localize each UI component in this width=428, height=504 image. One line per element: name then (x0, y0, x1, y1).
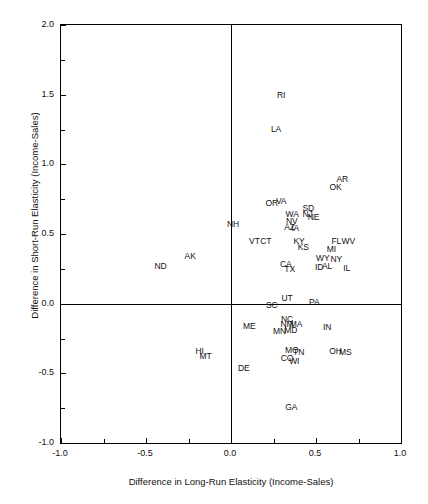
data-point-label: NH (227, 220, 239, 229)
data-point-label: CT (260, 236, 271, 245)
data-point-label: OK (330, 183, 342, 192)
y-tick-minor (61, 408, 65, 409)
data-point-label: TX (284, 265, 295, 274)
y-tick-label: -0.5 (22, 367, 54, 377)
x-tick (401, 438, 402, 443)
y-tick-label: 0.5 (22, 228, 54, 238)
y-tick (61, 373, 66, 374)
data-point-label: MT (199, 351, 211, 360)
y-tick-label: 1.5 (22, 89, 54, 99)
x-tick-label: 0.5 (309, 448, 322, 458)
x-tick (316, 438, 317, 443)
data-point-label: WI (289, 356, 299, 365)
data-point-label: MD (284, 326, 297, 335)
x-axis-title: Difference in Long-Run Elasticity (Incom… (60, 476, 402, 487)
data-point-label: WV (342, 236, 356, 245)
data-point-label: PA (309, 297, 320, 306)
x-tick-label: -1.0 (52, 448, 68, 458)
x-tick-label: 1.0 (394, 448, 407, 458)
y-tick-label: -1.0 (22, 437, 54, 447)
y-tick-label: 1.0 (22, 158, 54, 168)
data-point-label: GA (285, 403, 297, 412)
data-point-label: IL (343, 264, 350, 273)
y-tick-minor (61, 130, 65, 131)
y-tick-minor (61, 199, 65, 200)
data-point-label: VA (276, 197, 287, 206)
data-point-label: MS (339, 347, 352, 356)
y-tick-label: 2.0 (22, 19, 54, 29)
data-point-label: ND (154, 262, 166, 271)
data-point-label: RI (277, 90, 285, 99)
scatter-plot-figure: RILAAROKORVASDWANJNENVNHAZIAVTCTKYFLWVKS… (0, 0, 428, 504)
data-point-label: LA (271, 124, 281, 133)
data-point-label: IN (323, 323, 331, 332)
y-tick-minor (61, 269, 65, 270)
y-tick (61, 234, 66, 235)
zero-line-vertical (231, 25, 232, 443)
x-tick-minor (274, 439, 275, 443)
plot-canvas: RILAAROKORVASDWANJNENVNHAZIAVTCTKYFLWVKS… (61, 25, 401, 443)
x-tick-minor (359, 439, 360, 443)
y-tick (61, 304, 66, 305)
zero-line-horizontal (61, 304, 401, 305)
y-tick (61, 164, 66, 165)
x-tick-minor (189, 439, 190, 443)
x-tick-label: -0.5 (137, 448, 153, 458)
y-tick-minor (61, 60, 65, 61)
data-point-label: IA (291, 223, 299, 232)
data-point-label: AK (185, 252, 196, 261)
y-tick-minor (61, 339, 65, 340)
x-tick-label: 0.0 (224, 448, 237, 458)
data-point-label: VT (249, 236, 260, 245)
data-point-label: SC (266, 301, 278, 310)
x-tick (146, 438, 147, 443)
y-tick (61, 95, 66, 96)
data-point-label: NY (331, 255, 343, 264)
y-tick (61, 443, 66, 444)
data-point-label: KS (298, 242, 309, 251)
data-point-label: AL (322, 262, 332, 271)
data-point-label: UT (282, 294, 293, 303)
x-tick-minor (104, 439, 105, 443)
data-point-label: NE (308, 212, 320, 221)
y-tick (61, 25, 66, 26)
data-point-label: ME (243, 321, 256, 330)
data-point-label: DE (238, 364, 250, 373)
plot-frame: RILAAROKORVASDWANJNENVNHAZIAVTCTKYFLWVKS… (60, 24, 402, 444)
y-tick-label: 0.0 (22, 298, 54, 308)
x-tick (231, 438, 232, 443)
